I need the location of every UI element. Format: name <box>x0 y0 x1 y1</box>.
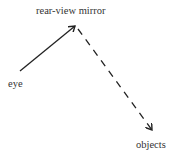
solid-arrow-eye-to-mirror <box>20 26 75 71</box>
eye-label: eye <box>8 79 23 90</box>
arrows-layer <box>0 0 176 159</box>
diagram-canvas: rear-view mirror eye objects <box>0 0 176 159</box>
dashed-arrow-mirror-to-objects <box>78 29 152 130</box>
mirror-label: rear-view mirror <box>36 6 105 17</box>
objects-label: objects <box>136 140 166 151</box>
